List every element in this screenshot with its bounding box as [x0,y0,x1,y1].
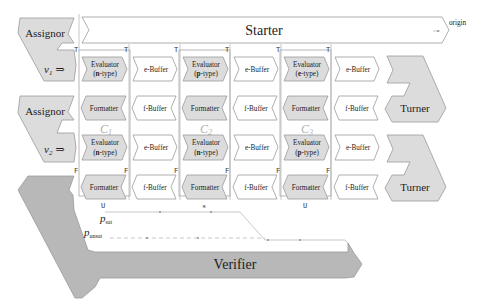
svg-text:Formatter: Formatter [90,184,119,192]
svg-text:e-Buffer: e-Buffer [144,66,169,74]
punsat-label: punsat [83,226,102,239]
svg-text:f-Buffer: f-Buffer [345,105,369,113]
formatter-c2-row2[interactable]: Formatter [182,175,227,199]
svg-text:F: F [326,167,330,175]
svg-text:Evaluator: Evaluator [91,61,120,69]
fbuffer-c3-row2[interactable]: f-Buffer [334,175,378,199]
path-unsat: punsat [83,226,265,239]
assignor-middle: Assignor v2⇒ [18,96,76,162]
fbuffer-c2-row2[interactable]: f-Buffer [233,175,277,199]
svg-text:f-Buffer: f-Buffer [143,105,167,113]
svg-text:T: T [74,46,79,54]
svg-text:F: F [225,167,229,175]
formatter-c2-row1[interactable]: Formatter [182,96,227,120]
svg-text:e-Buffer: e-Buffer [144,144,169,152]
evaluator-c1-row1[interactable]: Evaluator (n-type) [82,57,127,81]
svg-text:Evaluator: Evaluator [192,139,221,147]
psat-label: psat [99,212,112,225]
turner-bottom: Turner [385,135,446,201]
svg-text:(n-type): (n-type) [93,70,117,78]
assignor-middle-label: Assignor [25,105,65,117]
svg-text:e-Buffer: e-Buffer [245,66,270,74]
svg-text:F: F [124,167,128,175]
svg-text:f-Buffer: f-Buffer [244,184,268,192]
formatter-c3-row1[interactable]: Formatter [283,96,328,120]
svg-text:f-Buffer: f-Buffer [244,105,268,113]
svg-text:F: F [74,167,78,175]
evaluator-c1-row2[interactable]: Evaluator (n-type) [82,135,127,160]
origin-label: origin [449,19,467,27]
svg-text:e-Buffer: e-Buffer [245,144,270,152]
row1-formatters: Formatter f-Buffer Formatter f-Buffer Fo… [81,96,378,120]
ebuffer-c3-row1[interactable]: e-Buffer [335,57,379,81]
svg-text:F: F [174,167,178,175]
starter-label: Starter [245,23,283,38]
formatter-c3-row2[interactable]: Formatter [283,175,328,199]
false-signals-row2: F F F F F F [74,167,330,175]
svg-text:(n-type): (n-type) [93,149,117,157]
svg-text:Formatter: Formatter [90,105,119,113]
mark-u-c1: U [101,202,105,210]
evaluator-c3-row1[interactable]: Evaluator (e-type) [284,57,329,81]
turner-bottom-label: Turner [400,181,430,193]
evaluator-c3-row2[interactable]: Evaluator (p-type) [284,135,329,160]
svg-text:F: F [276,167,280,175]
svg-text:Evaluator: Evaluator [91,139,120,147]
formatter-c1-row2[interactable]: Formatter [81,175,126,199]
ebuffer-c2-row2[interactable]: e-Buffer [234,135,278,160]
mark-u-c3: U [303,202,307,210]
svg-text:Evaluator: Evaluator [293,139,322,147]
svg-text:Evaluator: Evaluator [192,61,221,69]
evaluator-c2-row2[interactable]: Evaluator (n-type) [183,135,228,160]
svg-text:Formatter: Formatter [292,105,321,113]
svg-text:(p-type): (p-type) [194,70,218,78]
row1-evaluators: Evaluator (n-type) e-Buffer Evaluator (p… [82,57,379,81]
ebuffer-c2-row1[interactable]: e-Buffer [234,57,278,81]
svg-text:Formatter: Formatter [191,184,220,192]
starter-block: Starter origin [82,17,467,43]
svg-text:Evaluator: Evaluator [293,61,322,69]
fbuffer-c2-row1[interactable]: f-Buffer [233,96,277,120]
ebuffer-c1-row1[interactable]: e-Buffer [133,57,177,81]
svg-text:(e-type): (e-type) [296,70,319,78]
svg-text:f-Buffer: f-Buffer [143,184,167,192]
verifier-label: Verifier [214,257,257,272]
evaluator-c2-row1[interactable]: Evaluator (p-type) [183,57,228,81]
formatter-c1-row1[interactable]: Formatter [81,96,126,120]
svg-text:T: T [174,46,179,54]
ebuffer-c3-row2[interactable]: e-Buffer [335,135,379,160]
svg-text:Formatter: Formatter [292,184,321,192]
assignor-top-label: Assignor [25,27,65,39]
turner-top-label: Turner [400,102,430,114]
assignor-top: Assignor v1⇒ [18,18,76,81]
svg-text:f-Buffer: f-Buffer [345,184,369,192]
row2-formatters: Formatter f-Buffer Formatter f-Buffer Fo… [81,175,378,199]
diagram-canvas: Starter origin Assignor v1⇒ Assignor v2⇒… [0,0,485,305]
fbuffer-c1-row1[interactable]: f-Buffer [132,96,176,120]
mark-star-c2: * [202,204,206,212]
ebuffer-c1-row2[interactable]: e-Buffer [133,135,177,160]
turner-top: Turner [385,56,446,122]
fbuffer-c3-row1[interactable]: f-Buffer [334,96,378,120]
svg-text:(p-type): (p-type) [295,149,319,157]
svg-text:e-Buffer: e-Buffer [346,66,371,74]
svg-text:Formatter: Formatter [191,105,220,113]
fbuffer-c1-row2[interactable]: f-Buffer [132,175,176,199]
svg-text:e-Buffer: e-Buffer [346,144,371,152]
row2-evaluators: Evaluator (n-type) e-Buffer Evaluator (n… [82,135,379,160]
svg-text:(n-type): (n-type) [194,149,218,157]
